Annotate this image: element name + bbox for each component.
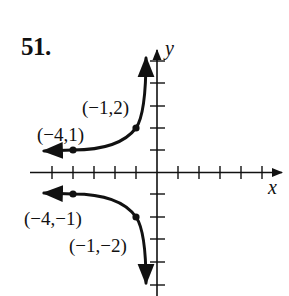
label-neg4-1: (−4,1) xyxy=(37,124,84,146)
label-neg1-neg2: (−1,−2) xyxy=(69,235,127,257)
x-axis-label: x xyxy=(267,176,277,198)
y-axis-label: y xyxy=(163,37,174,60)
graph: x y (−4,1) (−1,2) (−4,−1) (−1,−2) xyxy=(0,0,289,296)
point-neg1-neg2 xyxy=(132,213,139,220)
label-neg4-neg1: (−4,−1) xyxy=(24,208,82,230)
point-neg1-2 xyxy=(132,124,139,131)
label-neg1-2: (−1,2) xyxy=(82,97,129,119)
point-neg4-1 xyxy=(69,146,76,153)
point-neg4-neg1 xyxy=(69,190,76,197)
x-axis xyxy=(30,166,282,179)
